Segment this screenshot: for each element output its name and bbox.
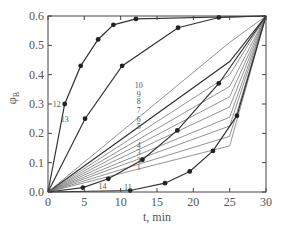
data-point-marker: [211, 149, 216, 154]
data-point-marker: [187, 169, 192, 174]
data-point-marker: [96, 37, 101, 42]
line-chart: 1234567891011121314 051015202530 0.00.10…: [0, 0, 283, 228]
x-tick-label: 5: [81, 195, 87, 209]
curve-label-7: 7: [137, 106, 141, 115]
x-axis-label: t, min: [143, 210, 171, 224]
series-line-13: [48, 16, 266, 192]
chart-container: 1234567891011121314 051015202530 0.00.10…: [0, 0, 283, 228]
series-layer: [48, 16, 266, 192]
data-point-marker: [120, 63, 125, 68]
y-tick-label: 0.4: [29, 68, 44, 82]
curve-label-12: 12: [53, 100, 61, 109]
y-axis-label: φB: [5, 92, 21, 104]
data-point-marker: [216, 81, 221, 86]
data-point-marker: [176, 25, 181, 30]
data-point-marker: [163, 181, 168, 186]
curve-label-6: 6: [137, 115, 141, 124]
data-point-marker: [78, 63, 83, 68]
data-point-marker: [134, 17, 139, 22]
curve-labels: 1234567891011121314: [53, 81, 143, 192]
y-tick-label: 0.0: [29, 185, 44, 199]
curve-label-13: 13: [61, 115, 69, 124]
data-point-marker: [83, 116, 88, 121]
data-point-marker: [111, 22, 116, 27]
y-tick-label: 0.6: [29, 9, 44, 23]
y-tick-label: 0.1: [29, 156, 44, 170]
x-tick-label: 10: [115, 195, 127, 209]
data-point-marker: [106, 176, 111, 181]
curve-label-10: 10: [135, 81, 143, 90]
x-tick-label: 20: [187, 195, 199, 209]
x-tick-label: 15: [151, 195, 163, 209]
y-tick-label: 0.3: [29, 97, 44, 111]
curve-label-14: 14: [99, 182, 107, 191]
x-tick-label: 0: [45, 195, 51, 209]
x-tick-label: 25: [224, 195, 236, 209]
y-tick-label: 0.5: [29, 38, 44, 52]
curve-label-9: 9: [137, 90, 141, 99]
curve-label-11: 11: [124, 183, 132, 192]
svg-text:φB: φB: [5, 92, 21, 104]
y-tick-label: 0.2: [29, 126, 44, 140]
data-point-marker: [62, 102, 67, 107]
data-point-marker: [235, 113, 240, 118]
curve-label-4: 4: [137, 141, 141, 150]
data-point-marker: [175, 128, 180, 133]
x-tick-label: 30: [260, 195, 272, 209]
